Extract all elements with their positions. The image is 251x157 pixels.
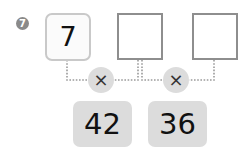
answer-input-box-2[interactable]: [192, 13, 238, 60]
product-result-1: 42: [73, 101, 132, 147]
product-result-2: 36: [148, 101, 207, 147]
multiply-icon: ×: [163, 67, 189, 93]
multiply-icon: ×: [88, 67, 114, 93]
problem-number-badge: 7: [16, 17, 29, 30]
given-number-box: 7: [45, 13, 91, 61]
answer-input-box-1[interactable]: [117, 13, 163, 60]
